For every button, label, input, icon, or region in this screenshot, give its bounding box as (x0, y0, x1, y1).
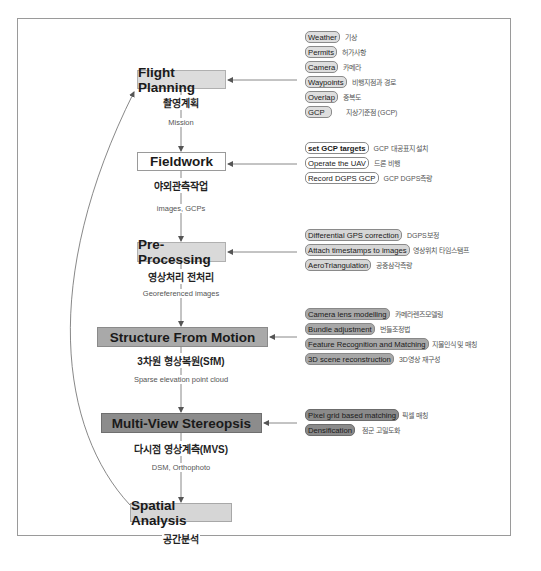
stage-label-ko: 공간분석 (162, 531, 200, 546)
pill-camera: Camera (305, 61, 338, 73)
list-item: Camera카메라 (305, 60, 397, 74)
stage-structure-from-motion: Structure From Motion (97, 327, 268, 347)
pill-label-ko: 비행지점과 경로 (352, 77, 396, 87)
group-mvs: Pixel grid based matching픽셀 매칭 Densifica… (305, 408, 428, 438)
pill-label-ko: 드론 비행 (374, 158, 400, 168)
group-pre-processing: Differential GPS correctionDGPS보정 Attach… (305, 228, 469, 273)
edge-label: Sparse elevation point cloud (132, 375, 230, 384)
pill-gcp: GCP (305, 106, 332, 118)
pill-aerotriangulation: AeroTriangulation (305, 259, 371, 271)
pill-label-ko: 지상기준점 (GCP) (346, 107, 398, 117)
list-item: Pixel grid based matching픽셀 매칭 (305, 408, 428, 422)
stage-spatial-analysis: Spatial Analysis (130, 503, 232, 522)
pill-overlap: Overlap (305, 91, 338, 103)
pill-operate-uav: Operate the UAV (305, 157, 369, 169)
pill-label-ko: DGPS보정 (407, 230, 439, 240)
list-item: set GCP targetsGCP 대공표지 설치 (305, 141, 432, 155)
edge-label: images, GCPs (155, 204, 207, 213)
list-item: Attach timestamps to images영상위치 타임스탬프 (305, 243, 469, 257)
stage-label: Flight Planning (138, 65, 225, 95)
pill-3d-scene-reconstruction: 3D scene reconstruction (305, 353, 394, 365)
list-item: Weather기상 (305, 30, 397, 44)
stage-label: Fieldwork (150, 154, 213, 169)
pill-permits: Permits (305, 46, 337, 58)
pill-feature-recognition: Feature Recognition and Matching (305, 338, 429, 350)
stage-label-ko: 영상처리 전처리 (147, 269, 215, 284)
stage-label: Multi-View Stereopsis (112, 416, 251, 431)
connector-lines (0, 0, 541, 571)
pill-set-gcp-targets: set GCP targets (305, 142, 369, 154)
pill-label-ko: 카메라 (343, 62, 361, 72)
list-item: Record DGPS GCPGCP DGPS측량 (305, 171, 432, 185)
edge-label: Georeferenced images (141, 289, 221, 298)
stage-label-ko: 다시점 영상계측(MVS) (133, 441, 229, 456)
stage-label: Pre-Processing (138, 237, 225, 267)
stage-label: Structure From Motion (110, 330, 256, 345)
pill-record-dgps-gcp: Record DGPS GCP (305, 172, 379, 184)
pill-pixel-grid-matching: Pixel grid based matching (305, 409, 399, 421)
stage-label-ko: 야외관측작업 (153, 178, 209, 193)
list-item: Permits허가사항 (305, 45, 397, 59)
stage-pre-processing: Pre-Processing (137, 242, 226, 262)
list-item: Camera lens modelling카메라렌즈모델링 (305, 307, 477, 321)
stage-fieldwork: Fieldwork (137, 152, 226, 171)
pill-label-ko: 3D영상 재구성 (399, 354, 440, 364)
pill-bundle-adjustment: Bundle adjustment (305, 323, 375, 335)
list-item: Differential GPS correctionDGPS보정 (305, 228, 469, 242)
pill-label-ko: 카메라렌즈모델링 (395, 309, 443, 319)
pill-label-ko: 공중삼각측량 (376, 260, 412, 270)
pill-attach-timestamps: Attach timestamps to images (305, 244, 410, 256)
stage-label-ko: 3차원 형상복원(SfM) (136, 353, 225, 368)
list-item: Operate the UAV드론 비행 (305, 156, 432, 170)
stage-flight-planning: Flight Planning (137, 70, 226, 89)
group-flight-planning: Weather기상 Permits허가사항 Camera카메라 Waypoint… (305, 30, 397, 120)
pill-label-ko: 중복도 (343, 92, 361, 102)
edge-label: Mission (166, 118, 195, 127)
pill-label-ko: 기상 (345, 32, 357, 42)
pill-label-ko: GCP DGPS측량 (384, 173, 433, 183)
stage-label: Spatial Analysis (131, 498, 231, 528)
pill-label-ko: 점군 고밀도화 (362, 425, 400, 435)
list-item: 3D scene reconstruction3D영상 재구성 (305, 352, 477, 366)
list-item: Densification점군 고밀도화 (305, 423, 428, 437)
pill-weather: Weather (305, 31, 340, 43)
pill-camera-lens-modelling: Camera lens modelling (305, 308, 390, 320)
stage-label-ko: 촬영계획 (162, 95, 200, 110)
edge-label: DSM, Orthophoto (150, 463, 212, 472)
list-item: AeroTriangulation공중삼각측량 (305, 258, 469, 272)
pill-densification: Densification (305, 424, 355, 436)
list-item: Overlap중복도 (305, 90, 397, 104)
group-sfm: Camera lens modelling카메라렌즈모델링 Bundle adj… (305, 307, 477, 367)
pill-label-ko: 영상위치 타임스탬프 (413, 245, 469, 255)
pill-differential-gps: Differential GPS correction (305, 229, 402, 241)
pill-label-ko: 허가사항 (342, 47, 366, 57)
pill-label-ko: 지물인식 및 매칭 (432, 339, 478, 349)
list-item: Waypoints비행지점과 경로 (305, 75, 397, 89)
pill-label-ko: GCP 대공표지 설치 (374, 143, 429, 153)
pill-label-ko: 번들조정법 (380, 324, 410, 334)
list-item: Bundle adjustment번들조정법 (305, 322, 477, 336)
stage-multi-view-stereopsis: Multi-View Stereopsis (101, 413, 262, 433)
pill-label-ko: 픽셀 매칭 (402, 410, 428, 420)
pill-waypoints: Waypoints (305, 76, 347, 88)
list-item: Feature Recognition and Matching지물인식 및 매… (305, 337, 477, 351)
group-fieldwork: set GCP targetsGCP 대공표지 설치 Operate the U… (305, 141, 432, 186)
list-item: GCP지상기준점 (GCP) (305, 105, 397, 119)
